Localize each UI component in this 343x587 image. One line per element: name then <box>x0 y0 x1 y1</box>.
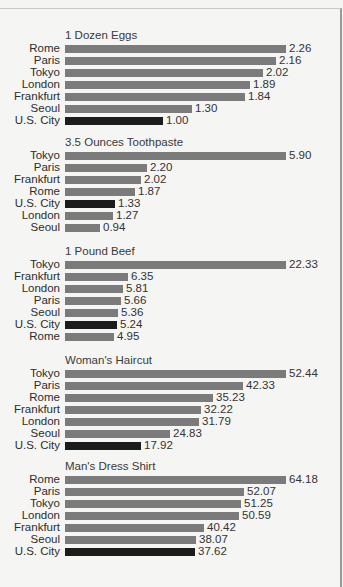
value-label: 50.59 <box>242 509 271 521</box>
chart-title: Man's Dress Shirt <box>65 460 155 472</box>
category-label: U.S. City <box>15 197 60 209</box>
chart-panel: 1 Pound BeefTokyo22.33Frankfurt6.35Londo… <box>0 245 340 347</box>
bar <box>65 176 141 184</box>
highlight-bar <box>65 117 163 125</box>
bar <box>65 152 286 160</box>
value-label: 40.42 <box>207 521 236 533</box>
category-label: London <box>22 209 60 221</box>
category-label: Paris <box>34 485 60 497</box>
category-label: U.S. City <box>15 318 60 330</box>
value-label: 5.81 <box>126 282 148 294</box>
value-label: 5.36 <box>121 306 143 318</box>
value-label: 22.33 <box>289 258 318 270</box>
value-label: 1.89 <box>253 78 275 90</box>
highlight-bar <box>65 200 115 208</box>
value-label: 38.07 <box>199 533 228 545</box>
value-label: 6.35 <box>131 270 153 282</box>
bar <box>65 309 118 317</box>
category-label: Rome <box>29 330 60 342</box>
value-label: 31.79 <box>202 415 231 427</box>
value-label: 2.26 <box>289 42 311 54</box>
category-label: Frankfurt <box>14 270 60 282</box>
bar <box>65 212 113 220</box>
value-label: 5.24 <box>120 318 142 330</box>
bar <box>65 285 123 293</box>
bar <box>65 224 100 232</box>
value-label: 5.90 <box>289 149 311 161</box>
category-label: Frankfurt <box>14 403 60 415</box>
bar <box>65 333 114 341</box>
chart-panel: 3.5 Ounces ToothpasteTokyo5.90Paris2.20F… <box>0 136 340 238</box>
bar-row: U.S. City37.62 <box>0 546 340 558</box>
bar <box>65 69 263 77</box>
bar <box>65 394 213 402</box>
bar-row: U.S. City17.92 <box>0 440 340 452</box>
bar-row: Rome4.95 <box>0 331 340 343</box>
category-label: U.S. City <box>15 545 60 557</box>
bar <box>65 93 245 101</box>
bar <box>65 476 286 484</box>
category-label: Rome <box>29 473 60 485</box>
category-label: Seoul <box>31 533 60 545</box>
value-label: 52.07 <box>247 485 276 497</box>
bar <box>65 370 286 378</box>
bar <box>65 105 192 113</box>
category-label: Seoul <box>31 221 60 233</box>
value-label: 24.83 <box>173 427 202 439</box>
chart-title: 3.5 Ounces Toothpaste <box>65 136 183 148</box>
bar <box>65 164 147 172</box>
bar <box>65 418 199 426</box>
value-label: 52.44 <box>289 367 318 379</box>
category-label: Rome <box>29 185 60 197</box>
category-label: Tokyo <box>30 258 60 270</box>
highlight-bar <box>65 442 141 450</box>
bar <box>65 297 121 305</box>
value-label: 1.84 <box>248 90 270 102</box>
chart-title: 1 Dozen Eggs <box>65 29 137 41</box>
category-label: Seoul <box>31 427 60 439</box>
value-label: 0.94 <box>103 221 125 233</box>
value-label: 2.02 <box>144 173 166 185</box>
category-label: Paris <box>34 294 60 306</box>
bar <box>65 261 286 269</box>
category-label: Seoul <box>31 102 60 114</box>
category-label: Frankfurt <box>14 173 60 185</box>
value-label: 1.87 <box>138 185 160 197</box>
bar <box>65 406 201 414</box>
chart-panel: Woman's HaircutTokyo52.44Paris42.33Rome3… <box>0 354 340 456</box>
bar <box>65 488 244 496</box>
category-label: London <box>22 509 60 521</box>
value-label: 1.00 <box>166 114 188 126</box>
value-label: 32.22 <box>204 403 233 415</box>
value-label: 1.33 <box>118 197 140 209</box>
category-label: London <box>22 415 60 427</box>
highlight-bar <box>65 321 117 329</box>
bar-row: U.S. City1.00 <box>0 115 340 127</box>
bar <box>65 45 286 53</box>
category-label: Tokyo <box>30 149 60 161</box>
bar <box>65 536 196 544</box>
chart-title: 1 Pound Beef <box>65 245 135 257</box>
chart-panel: 1 Dozen EggsRome2.26Paris2.16Tokyo2.02Lo… <box>0 29 340 131</box>
bar <box>65 512 239 520</box>
category-label: London <box>22 282 60 294</box>
bar <box>65 81 250 89</box>
bar <box>65 382 243 390</box>
category-label: Paris <box>34 54 60 66</box>
value-label: 42.33 <box>246 379 275 391</box>
category-label: Seoul <box>31 306 60 318</box>
category-label: U.S. City <box>15 114 60 126</box>
category-label: Tokyo <box>30 497 60 509</box>
value-label: 1.27 <box>116 209 138 221</box>
category-label: Paris <box>34 379 60 391</box>
bar <box>65 500 241 508</box>
value-label: 35.23 <box>216 391 245 403</box>
chart-panel: Man's Dress ShirtRome64.18Paris52.07Toky… <box>0 460 340 562</box>
category-label: Rome <box>29 42 60 54</box>
bar <box>65 430 170 438</box>
category-label: U.S. City <box>15 439 60 451</box>
highlight-bar <box>65 548 195 556</box>
bar <box>65 57 276 65</box>
category-label: Paris <box>34 161 60 173</box>
value-label: 2.16 <box>279 54 301 66</box>
